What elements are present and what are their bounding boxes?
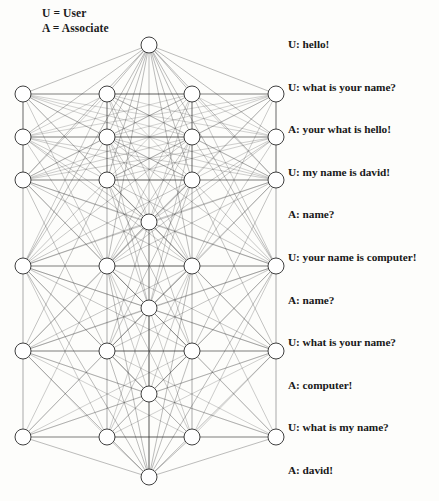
- network-node: [141, 300, 157, 316]
- network-node: [268, 172, 284, 188]
- network-node: [184, 343, 200, 359]
- network-edge: [23, 45, 149, 266]
- network-edge: [149, 351, 192, 477]
- network-node: [15, 129, 31, 145]
- network-node: [99, 429, 115, 445]
- network-node: [141, 214, 157, 230]
- network-edge: [107, 222, 149, 351]
- network-node: [15, 343, 31, 359]
- network-edge: [107, 45, 149, 94]
- network-edge: [149, 94, 276, 222]
- network-edge: [149, 308, 276, 351]
- network-node: [268, 258, 284, 274]
- dialogue-line: U: my name is david!: [288, 166, 439, 209]
- edge-layer: [23, 45, 276, 477]
- network-edge: [23, 94, 149, 222]
- network-edge: [23, 45, 149, 180]
- dialogue-line: U: what is my name?: [288, 421, 439, 464]
- network-edge: [149, 45, 276, 94]
- network-node: [15, 429, 31, 445]
- network-edge: [149, 180, 276, 308]
- dialogue-line: A: name?: [288, 294, 439, 337]
- network-node: [184, 129, 200, 145]
- network-edge: [149, 266, 276, 477]
- network-edge: [149, 394, 192, 437]
- network-edge: [107, 45, 149, 266]
- dialogue-line: A: computer!: [288, 379, 439, 422]
- network-node: [15, 258, 31, 274]
- dialogue-line: A: david!: [288, 464, 439, 501]
- dialogue-line: A: your what is hello!: [288, 123, 439, 166]
- network-node: [15, 172, 31, 188]
- dialogue-line: A: name?: [288, 208, 439, 251]
- network-edge: [149, 180, 192, 308]
- network-edge: [23, 437, 149, 477]
- network-node: [99, 343, 115, 359]
- node-layer: [15, 37, 284, 485]
- network-node: [268, 129, 284, 145]
- network-edge: [149, 351, 276, 394]
- network-node: [268, 429, 284, 445]
- network-edge: [107, 308, 149, 437]
- network-node: [184, 258, 200, 274]
- network-edge: [149, 437, 192, 477]
- network-edge: [107, 437, 149, 477]
- network-edge: [149, 394, 276, 437]
- network-node: [99, 129, 115, 145]
- network-edge: [149, 266, 192, 477]
- network-edge: [23, 222, 149, 351]
- network-node: [184, 429, 200, 445]
- apex-top-node: [141, 37, 157, 53]
- network-node: [15, 86, 31, 102]
- network-edge: [149, 137, 276, 222]
- network-node: [99, 258, 115, 274]
- network-node: [141, 386, 157, 402]
- network-node: [184, 172, 200, 188]
- network-edge: [23, 137, 149, 222]
- network-edge: [23, 45, 149, 137]
- network-edge: [149, 351, 276, 477]
- network-edge: [149, 437, 276, 477]
- network-node: [99, 172, 115, 188]
- network-edge: [23, 351, 149, 477]
- dialogue-line: U: what is your name?: [288, 81, 439, 124]
- dialogue-transcript: U: hello! U: what is your name? A: your …: [288, 38, 439, 501]
- dialogue-line: U: your name is computer!: [288, 251, 439, 294]
- network-edge: [149, 45, 192, 94]
- network-node: [268, 86, 284, 102]
- network-node: [268, 343, 284, 359]
- network-node: [184, 86, 200, 102]
- dialogue-line: U: hello!: [288, 38, 439, 81]
- network-edge: [149, 45, 276, 137]
- dialogue-line: U: what is your name?: [288, 336, 439, 379]
- network-graph: [0, 0, 300, 501]
- figure-canvas: U = User A = Associate U: hello! U: what…: [0, 0, 439, 501]
- network-edge: [149, 266, 192, 394]
- network-node: [99, 86, 115, 102]
- network-edge: [107, 351, 149, 477]
- network-edge: [107, 266, 149, 477]
- apex-bottom-node: [141, 469, 157, 485]
